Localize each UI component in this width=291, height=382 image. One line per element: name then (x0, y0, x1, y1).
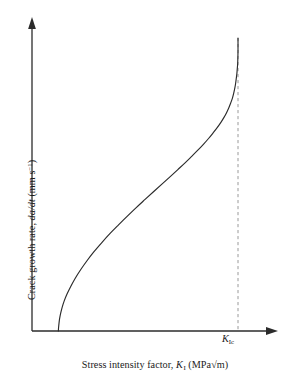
y-axis-label-prefix: Crack growth rate, (26, 220, 37, 300)
crack-growth-rate-curve (58, 38, 238, 331)
x-axis-label: Stress intensity factor, KI (MPa√m) (32, 358, 278, 375)
kic-subscript: Ic (229, 338, 234, 345)
y-axis-label-variable: da/dt (26, 199, 37, 220)
y-axis-label-units-exponent: −1 (26, 163, 33, 170)
y-axis-label-units-open: (mm s (26, 171, 37, 200)
figure-crack-growth-rate-chart: Crack growth rate, da/dt (mm s−1) Stress… (0, 0, 291, 382)
y-axis-label-units-close: ) (26, 160, 37, 163)
chart-plot-area (0, 0, 291, 382)
kic-variable: K (222, 333, 229, 344)
x-axis-label-prefix: Stress intensity factor, (82, 359, 176, 370)
kic-annotation-label: KIc (222, 332, 234, 348)
x-axis-arrowhead (266, 327, 278, 335)
x-axis-label-units: (MPa√m) (186, 359, 229, 370)
y-axis-label: Crack growth rate, da/dt (mm s−1) (22, 0, 38, 300)
